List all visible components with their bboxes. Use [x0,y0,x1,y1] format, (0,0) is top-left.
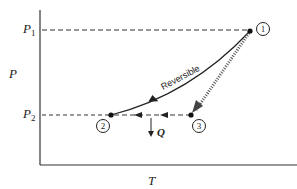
irreversible-arrowhead [192,100,203,113]
p1-label: P1 [23,22,35,38]
heat-arrowhead [148,131,154,137]
point-1-dot [247,28,252,33]
y-axis-label: P [9,67,17,80]
p2-label: P2 [23,107,35,123]
point-3-label: 3 [192,119,206,133]
point-2-label: 2 [96,119,110,133]
point-1-label: 1 [256,22,270,36]
diagram-canvas: Reversible [0,0,297,189]
heat-label: Q [157,127,165,138]
point-2-dot [108,112,113,117]
arrow-3-2-a [160,112,168,118]
x-axis-label: T [148,174,155,187]
arrow-3-2-b [134,112,142,118]
point-3-dot [188,112,193,117]
